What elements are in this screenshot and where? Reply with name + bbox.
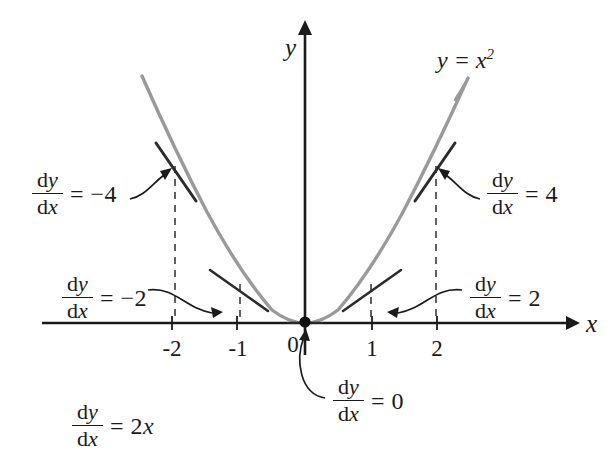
fraction-denominator: dx bbox=[65, 299, 90, 323]
annotation-value: = 2 bbox=[508, 286, 541, 310]
annotation-value: = −2 bbox=[100, 286, 147, 310]
y-axis-arrowhead bbox=[298, 20, 312, 35]
fraction-numerator: dy bbox=[65, 272, 90, 296]
numerator-variable: y bbox=[78, 271, 88, 296]
annotation-slope-two: dy dx = 2 bbox=[470, 272, 541, 323]
annotation-slope-minus-two: dy dx = −2 bbox=[62, 272, 147, 323]
leader-arrow-minus-two bbox=[148, 290, 212, 313]
annotation-value: = −4 bbox=[70, 182, 117, 206]
fraction-dy-dx: dy dx bbox=[487, 168, 518, 219]
fraction-denominator: dx bbox=[490, 195, 515, 219]
origin-point-marker bbox=[299, 316, 310, 327]
leader-arrowhead-minus-four bbox=[160, 168, 172, 180]
fraction-dy-dx: dy dx bbox=[72, 400, 103, 451]
x-tick-label-2: 2 bbox=[417, 337, 457, 360]
fraction-numerator: dy bbox=[490, 168, 515, 192]
leader-arrow-four bbox=[446, 175, 480, 199]
x-tick-label-minus-1: -1 bbox=[218, 337, 258, 360]
annotation-derivative-rule: dy dx = 2x bbox=[72, 400, 154, 451]
x-axis-arrowhead bbox=[566, 316, 580, 330]
numerator-variable: y bbox=[349, 374, 359, 399]
annotation-slope-minus-four: dy dx = −4 bbox=[32, 168, 117, 219]
fraction-dy-dx: dy dx bbox=[62, 272, 93, 323]
leader-arrow-minus-four bbox=[130, 175, 164, 199]
annotation-value: = 2x bbox=[110, 414, 154, 438]
tangent-at-minus-1 bbox=[210, 270, 268, 311]
fraction-numerator: dy bbox=[35, 168, 60, 192]
denominator-variable: x bbox=[88, 426, 98, 451]
denominator-variable: x bbox=[48, 194, 58, 219]
denominator-variable: x bbox=[486, 298, 496, 323]
fraction-denominator: dx bbox=[473, 299, 498, 323]
fraction-dy-dx: dy dx bbox=[32, 168, 63, 219]
x-tick-label-minus-2: -2 bbox=[152, 337, 192, 360]
fraction-denominator: dx bbox=[336, 402, 361, 426]
fraction-dy-dx: dy dx bbox=[333, 375, 364, 426]
fraction-numerator: dy bbox=[336, 375, 361, 399]
numerator-variable: y bbox=[486, 271, 496, 296]
curve-equation-exponent: 2 bbox=[487, 46, 494, 62]
origin-label: 0 bbox=[273, 333, 313, 356]
fraction-denominator: dx bbox=[35, 195, 60, 219]
denominator-variable: x bbox=[349, 401, 359, 426]
numerator-variable: y bbox=[503, 167, 513, 192]
annotation-value: = 4 bbox=[525, 182, 558, 206]
y-axis-label: y bbox=[285, 35, 296, 60]
leader-arrowhead-two bbox=[387, 307, 399, 318]
curve-equation-base: y = x bbox=[437, 47, 487, 73]
fraction-numerator: dy bbox=[473, 272, 498, 296]
x-axis-label: x bbox=[586, 311, 597, 336]
rule-variable: x bbox=[143, 413, 154, 439]
fraction-dy-dx: dy dx bbox=[470, 272, 501, 323]
leader-arrow-two bbox=[398, 290, 462, 313]
annotation-slope-four: dy dx = 4 bbox=[487, 168, 558, 219]
annotation-slope-zero: dy dx = 0 bbox=[333, 375, 404, 426]
annotation-value: = 0 bbox=[371, 389, 404, 413]
numerator-variable: y bbox=[48, 167, 58, 192]
fraction-numerator: dy bbox=[75, 400, 100, 424]
leader-arrowhead-four bbox=[438, 168, 450, 180]
x-tick-label-1: 1 bbox=[352, 337, 392, 360]
denominator-variable: x bbox=[503, 194, 513, 219]
denominator-variable: x bbox=[78, 298, 88, 323]
curve-equation-label: y = x2 bbox=[437, 48, 494, 72]
numerator-variable: y bbox=[88, 399, 98, 424]
fraction-denominator: dx bbox=[75, 427, 100, 451]
leader-arrowhead-minus-two bbox=[211, 307, 223, 318]
derivative-diagram: y x y = x2 0 -2 -1 1 2 dy dx = −4 dy dx … bbox=[0, 0, 611, 469]
